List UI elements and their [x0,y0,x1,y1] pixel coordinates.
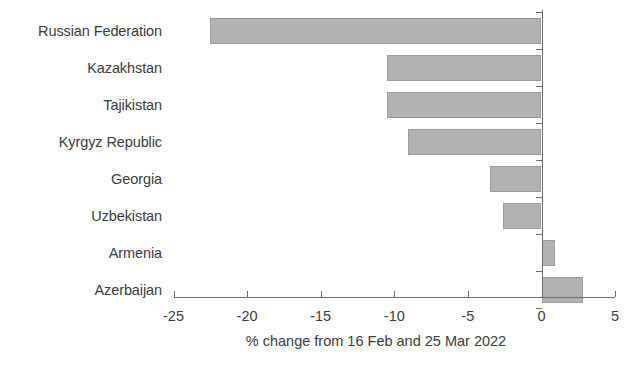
y-axis-tick [536,86,542,87]
y-axis-tick [536,234,542,235]
x-axis-tick-label: 5 [590,309,636,324]
x-axis-tick-label: -10 [369,309,419,324]
x-axis-tick [174,291,175,297]
x-axis-title: % change from 16 Feb and 25 Mar 2022 [0,334,636,349]
y-axis-tick [536,271,542,272]
x-axis-tick [468,291,469,297]
bar-chart: Russian Federation Kazakhstan Tajikistan… [0,0,636,367]
y-axis-tick [536,197,542,198]
bar-6 [542,240,555,266]
bar-3 [408,129,542,155]
bar-2 [387,92,542,118]
x-axis-tick-label: -20 [222,309,272,324]
x-axis-tick [615,291,616,297]
y-axis-tick [536,123,542,124]
x-axis-tick-label: -25 [149,309,199,324]
bar-7 [542,277,583,303]
y-axis-tick [536,160,542,161]
bar-5 [503,203,541,229]
bar-4 [490,166,542,192]
x-axis-tick-label: 0 [517,309,567,324]
bar-1 [387,55,542,81]
y-axis-tick [536,12,542,13]
x-axis-tick [394,291,395,297]
x-axis-tick-label: -5 [443,309,493,324]
x-axis-tick [321,291,322,297]
x-axis-line [174,297,616,298]
x-axis-tick-label: -15 [296,309,346,324]
plot-area [0,0,636,300]
zero-axis-line [542,10,543,297]
x-axis-tick [542,291,543,297]
y-axis-tick [536,49,542,50]
bar-0 [210,18,541,44]
x-axis-tick [247,291,248,297]
x-axis-title-text: % change from 16 Feb and 25 Mar 2022 [246,333,506,349]
